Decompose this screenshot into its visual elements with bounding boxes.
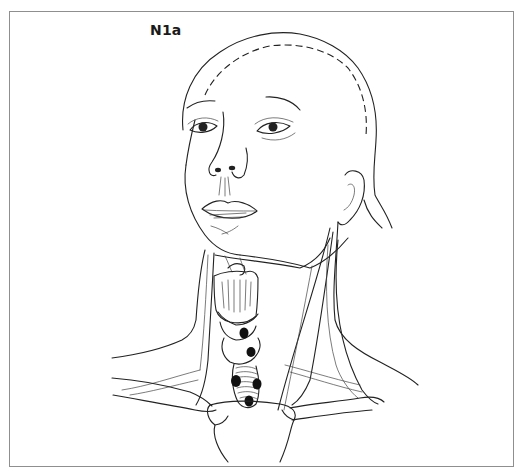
- lymph-node-icon: [247, 347, 256, 357]
- neck-outline: [112, 222, 418, 385]
- lymph-node-icon: [231, 375, 241, 387]
- right-eye-iris: [269, 123, 278, 132]
- head-neck-illustration: [0, 0, 524, 476]
- eyes: [188, 118, 295, 140]
- eyebrows: [187, 97, 300, 110]
- lips: [202, 201, 257, 234]
- neck-muscles: [122, 228, 378, 410]
- left-eye-iris: [199, 123, 208, 132]
- lymph-node-icon: [253, 379, 262, 390]
- sternum: [208, 401, 296, 462]
- lymph-node-icon: [240, 328, 249, 339]
- larynx: [214, 264, 258, 340]
- ear: [338, 171, 382, 228]
- head-outline: [183, 33, 392, 228]
